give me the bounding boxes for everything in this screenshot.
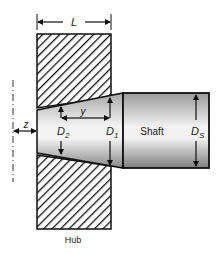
hub-lower-section: [37, 155, 111, 229]
shaft-hub-diagram: L z y D2 D1 Shaft DS Hub: [0, 0, 219, 254]
hub-label: Hub: [65, 235, 82, 245]
length-label: L: [71, 16, 77, 28]
shaft-label: Shaft: [140, 126, 164, 137]
axial-position-label: y: [80, 106, 87, 117]
offset-label: z: [23, 119, 29, 130]
offset-dimension: z: [14, 119, 36, 131]
length-dimension: L: [37, 14, 111, 30]
